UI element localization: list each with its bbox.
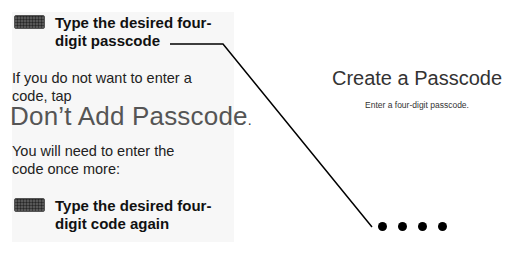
passcode-dot-1 [378,222,387,231]
passcode-dot-3 [418,222,427,231]
passcode-dot-4 [438,222,447,231]
screen-subtitle: Enter a four-digit passcode. [322,100,512,110]
screen-title: Create a Passcode [322,67,512,90]
leader-line [0,0,529,255]
passcode-field[interactable] [378,222,449,231]
passcode-dot-2 [398,222,407,231]
